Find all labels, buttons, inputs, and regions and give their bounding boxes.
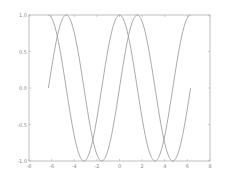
y-tick-label: 0.5: [19, 49, 27, 55]
y-tick-label: -0.5: [17, 122, 27, 128]
y-tick-label: -1.0: [17, 158, 27, 164]
y-tick-label: 1.0: [19, 12, 27, 18]
x-tick-label: -4: [72, 163, 77, 169]
x-tick-label: -6: [49, 163, 54, 169]
series-line-sin: [48, 15, 190, 161]
x-tick-label: 8: [208, 163, 211, 169]
x-tick-label: 6: [186, 163, 189, 169]
x-tick-label: -8: [27, 163, 32, 169]
y-tick-label: 0.0: [19, 85, 27, 91]
x-tick-label: 0: [118, 163, 121, 169]
x-tick-label: 2: [141, 163, 144, 169]
x-tick-label: -2: [94, 163, 99, 169]
x-tick-label: 4: [163, 163, 166, 169]
line-chart: -8-6-4-202468 -1.0-0.50.00.51.0: [0, 0, 225, 177]
series-layer: [48, 15, 190, 161]
